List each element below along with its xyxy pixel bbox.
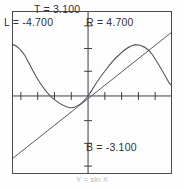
graph-caption: Y = sin X — [0, 176, 184, 184]
sine-function-curve — [13, 45, 171, 108]
window-bottom-label: B = -3.100 — [86, 142, 137, 153]
window-right-label: R = 4.700 — [86, 17, 134, 28]
window-top-label: T = 3.100 — [34, 4, 80, 15]
window-left-label: L = -4.700 — [4, 17, 53, 28]
calculator-graph-screenshot: T = 3.100 L = -4.700 R = 4.700 B = -3.10… — [0, 0, 184, 189]
